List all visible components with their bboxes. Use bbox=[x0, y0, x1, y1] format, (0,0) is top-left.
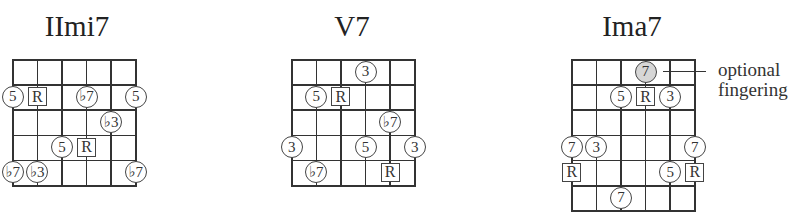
chord-title: Ima7 bbox=[572, 10, 692, 43]
fretboard-grid: 75R3737R5R7 bbox=[571, 59, 694, 210]
interval-circle-marker: 3 bbox=[281, 136, 303, 158]
fret-line bbox=[12, 185, 137, 187]
fret-line bbox=[571, 210, 696, 212]
string-line bbox=[86, 59, 88, 185]
interval-circle-marker: 7 bbox=[561, 136, 583, 158]
fret-line bbox=[12, 135, 137, 137]
interval-circle-marker: 5 bbox=[610, 86, 632, 108]
annotation-line-2: fingering bbox=[718, 80, 788, 100]
string-line bbox=[669, 59, 671, 210]
string-line bbox=[414, 59, 416, 185]
annotation-pointer-line bbox=[663, 71, 706, 72]
interval-circle-marker: ♭7 bbox=[125, 161, 147, 183]
fret-line bbox=[12, 109, 137, 111]
interval-circle-marker: ♭7 bbox=[2, 161, 24, 183]
fret-line bbox=[571, 160, 696, 162]
root-box-marker: R bbox=[562, 163, 581, 182]
fret-line bbox=[291, 135, 416, 137]
root-box-marker: R bbox=[381, 163, 400, 182]
fret-line bbox=[571, 109, 696, 111]
interval-circle-marker-optional: 7 bbox=[635, 61, 657, 83]
fret-line bbox=[571, 135, 696, 137]
optional-fingering-annotation: optional fingering bbox=[718, 60, 788, 100]
fret-line bbox=[291, 84, 416, 86]
fret-line bbox=[12, 59, 137, 61]
fret-line bbox=[571, 185, 696, 187]
chord-title: IImi7 bbox=[17, 10, 137, 43]
fret-line bbox=[571, 84, 696, 86]
string-line bbox=[571, 59, 573, 210]
fretboard-grid: 35R♭7353♭7R bbox=[291, 59, 414, 185]
interval-circle-marker: ♭3 bbox=[100, 111, 122, 133]
string-line bbox=[340, 59, 342, 185]
interval-circle-marker: 7 bbox=[610, 187, 632, 209]
interval-circle-marker: ♭7 bbox=[305, 161, 327, 183]
interval-circle-marker: 3 bbox=[355, 61, 377, 83]
string-line bbox=[694, 59, 696, 210]
interval-circle-marker: 5 bbox=[659, 161, 681, 183]
interval-circle-marker: 3 bbox=[404, 136, 426, 158]
fret-line bbox=[291, 160, 416, 162]
string-line bbox=[61, 59, 63, 185]
interval-circle-marker: 5 bbox=[125, 86, 147, 108]
fret-line bbox=[291, 59, 416, 61]
interval-circle-marker: 3 bbox=[585, 136, 607, 158]
fret-line bbox=[571, 59, 696, 61]
interval-circle-marker: 5 bbox=[355, 136, 377, 158]
interval-circle-marker: 5 bbox=[305, 86, 327, 108]
interval-circle-marker: 7 bbox=[684, 136, 706, 158]
root-box-marker: R bbox=[636, 87, 655, 106]
fret-line bbox=[12, 160, 137, 162]
root-box-marker: R bbox=[331, 87, 350, 106]
interval-circle-marker: ♭7 bbox=[379, 111, 401, 133]
interval-circle-marker: 3 bbox=[659, 86, 681, 108]
fret-line bbox=[291, 185, 416, 187]
chord-title: V7 bbox=[292, 10, 412, 43]
interval-circle-marker: ♭3 bbox=[26, 161, 48, 183]
root-box-marker: R bbox=[77, 138, 96, 157]
fret-line bbox=[291, 109, 416, 111]
fret-line bbox=[12, 84, 137, 86]
root-box-marker: R bbox=[28, 87, 47, 106]
interval-circle-marker: 5 bbox=[2, 86, 24, 108]
string-line bbox=[291, 59, 293, 185]
annotation-line-1: optional bbox=[718, 60, 788, 80]
interval-circle-marker: 5 bbox=[51, 136, 73, 158]
string-line bbox=[596, 59, 598, 210]
root-box-marker: R bbox=[685, 163, 704, 182]
interval-circle-marker: ♭7 bbox=[76, 86, 98, 108]
fretboard-grid: 5R♭75♭35R♭7♭3♭7 bbox=[12, 59, 135, 185]
